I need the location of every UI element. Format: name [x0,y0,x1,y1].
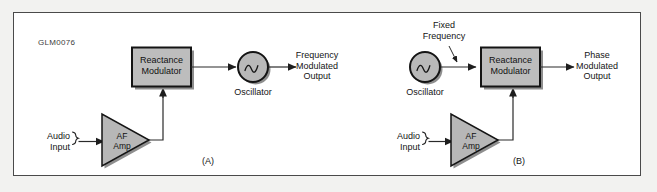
audio-input-label-b: Audio Input [374,131,420,152]
oscillator-circle-a [238,52,268,82]
modulator-label-b: Reactance Modulator [481,55,540,77]
panel-tag-b: (B) [513,156,525,166]
oscillator-label-a: Oscillator [223,87,283,98]
diagram-canvas [0,0,657,192]
input-terminal-icon-b [423,132,429,144]
annotation-pointer-icon-b [449,46,457,62]
panel-tag-a: (A) [202,156,214,166]
audio-input-label-a: Audio Input [24,131,70,152]
signal-line-amp-to-mod-a [149,92,163,140]
signal-line-amp-to-mod-b [498,92,513,140]
oscillator-circle-b [410,52,440,82]
figure-id-code: GLM0076 [38,38,75,47]
amp-label-a: AF Amp [104,131,140,151]
oscillator-label-b: Oscillator [395,87,455,98]
amp-label-b: AF Amp [453,131,489,151]
modulator-label-a: Reactance Modulator [132,55,191,77]
figure-root: GLM0076 Audio Input AF Amp Reactance Mod… [0,0,657,192]
output-label-a: Frequency Modulated Output [286,50,348,82]
fixed-frequency-label-b: Fixed Frequency [412,20,476,41]
input-terminal-icon-a [73,132,79,144]
output-label-b: Phase Modulated Output [566,50,628,82]
